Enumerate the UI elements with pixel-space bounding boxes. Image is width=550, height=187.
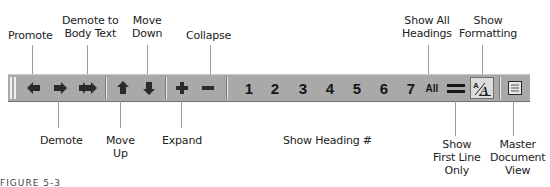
master-document-view-button[interactable] <box>505 78 525 98</box>
label-show-first-line-only: Show First Line Only <box>433 138 481 177</box>
label-demote-to-body-text: Demote to Body Text <box>62 14 119 40</box>
label-move-down: Move Down <box>132 14 162 40</box>
leader-show-first-line <box>455 101 456 136</box>
arrow-up-icon <box>117 81 129 95</box>
label-promote: Promote <box>8 29 53 42</box>
minus-icon <box>202 82 214 94</box>
label-master-document-view: Master Document View <box>490 138 545 177</box>
toolbar-separator <box>499 77 501 99</box>
show-all-icon: All <box>426 83 439 94</box>
show-heading-6-button[interactable]: 6 <box>375 78 393 98</box>
demote-button[interactable] <box>50 78 70 98</box>
show-heading-1-button[interactable]: 1 <box>240 78 258 98</box>
label-line: Body Text <box>62 27 119 40</box>
show-heading-3-button[interactable]: 3 <box>294 78 312 98</box>
leader-demote <box>58 101 59 128</box>
label-line: Down <box>132 27 162 40</box>
toolbar-separator <box>165 77 167 99</box>
leader-collapse <box>210 45 211 74</box>
svg-text:A: A <box>473 81 479 90</box>
label-line: Master <box>490 138 545 151</box>
leader-move-up <box>120 101 121 128</box>
label-line: First Line <box>433 151 481 164</box>
promote-button[interactable] <box>24 78 44 98</box>
move-down-button[interactable] <box>139 78 159 98</box>
label-show-formatting: Show Formatting <box>459 14 517 40</box>
leader-show-formatting <box>482 45 483 74</box>
label-line: View <box>490 164 545 177</box>
svg-text:A: A <box>479 83 489 96</box>
show-first-line-only-button[interactable] <box>445 78 467 98</box>
figure-caption: FIGURE 5-3 <box>0 178 61 187</box>
move-up-button[interactable] <box>113 78 133 98</box>
leader-demote-to-body <box>87 45 88 74</box>
label-line: Move <box>132 14 162 27</box>
show-heading-4-button[interactable]: 4 <box>321 78 339 98</box>
label-line: Show All <box>402 14 452 27</box>
label-collapse: Collapse <box>186 29 231 42</box>
arrow-left-icon <box>27 82 41 94</box>
leader-move-down <box>147 45 148 74</box>
outlining-toolbar: 1 2 3 4 5 6 7 All A A <box>8 74 530 102</box>
label-line: Document <box>490 151 545 164</box>
label-line: Headings <box>402 27 452 40</box>
arrow-right-icon <box>53 82 67 94</box>
show-heading-5-button[interactable]: 5 <box>348 78 366 98</box>
double-arrow-right-icon <box>79 82 97 94</box>
label-line: Only <box>433 164 481 177</box>
label-line: Move <box>106 134 135 147</box>
label-move-up: Move Up <box>106 134 135 160</box>
label-line: Formatting <box>459 27 517 40</box>
show-heading-7-button[interactable]: 7 <box>402 78 420 98</box>
toolbar-separator <box>226 77 228 99</box>
toolbar-separator <box>105 77 107 99</box>
leader-show-all-headings <box>428 45 429 74</box>
leader-master-document <box>513 101 514 136</box>
label-demote: Demote <box>40 134 83 147</box>
show-heading-2-button[interactable]: 2 <box>266 78 284 98</box>
label-line: Show <box>433 138 481 151</box>
label-line: Up <box>106 147 135 160</box>
toolbar-grip-handle[interactable] <box>10 77 16 99</box>
show-all-headings-button[interactable]: All <box>422 78 442 98</box>
leader-promote <box>32 45 33 74</box>
label-line: Show <box>459 14 517 27</box>
label-show-heading-number: Show Heading # <box>283 134 372 147</box>
expand-button[interactable] <box>172 78 192 98</box>
collapse-button[interactable] <box>198 78 218 98</box>
label-show-all-headings: Show All Headings <box>402 14 452 40</box>
leader-expand <box>181 101 182 128</box>
show-formatting-button[interactable]: A A <box>470 77 494 99</box>
show-formatting-icon: A A <box>472 80 492 96</box>
label-line: Demote to <box>62 14 119 27</box>
demote-to-body-text-button[interactable] <box>76 78 100 98</box>
arrow-down-icon <box>143 81 155 95</box>
plus-icon <box>176 82 188 94</box>
master-document-icon <box>508 81 522 95</box>
first-line-icon <box>447 82 465 94</box>
label-expand: Expand <box>162 134 202 147</box>
